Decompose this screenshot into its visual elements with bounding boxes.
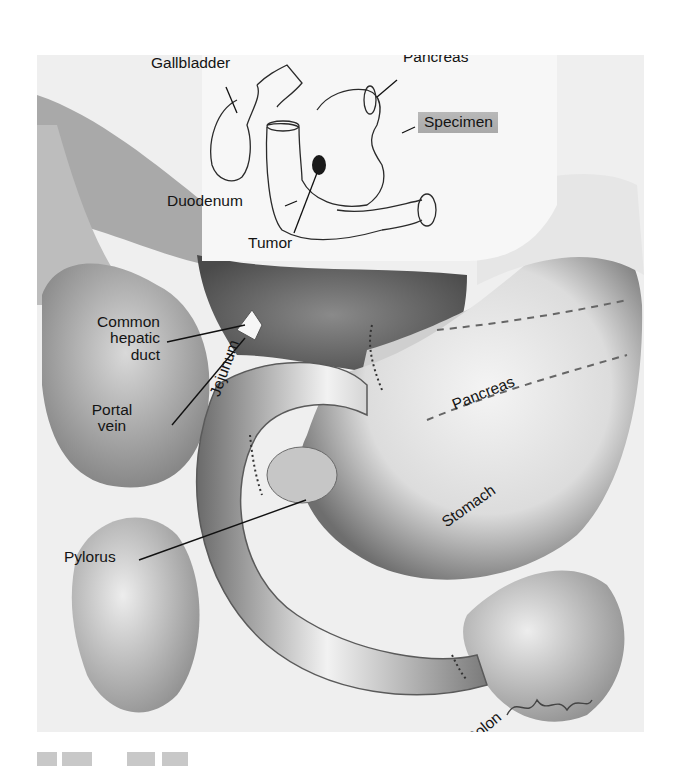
label-line: Common bbox=[70, 314, 160, 330]
label-line: vein bbox=[77, 418, 147, 434]
label-line: duct bbox=[70, 347, 160, 363]
label-tumor: Tumor bbox=[248, 235, 292, 251]
label-duodenum: Duodenum bbox=[167, 193, 243, 209]
label-line: Portal bbox=[77, 402, 147, 418]
surgical-illustration: Gallbladder Pancreas Specimen Duodenum T… bbox=[37, 55, 644, 732]
label-gallbladder: Gallbladder bbox=[151, 55, 230, 71]
label-inset-pancreas: Pancreas bbox=[403, 55, 468, 65]
figure-caption-cutoff bbox=[37, 752, 337, 768]
tumor-mark bbox=[312, 155, 326, 175]
label-specimen: Specimen bbox=[418, 112, 498, 133]
illustration-artwork bbox=[37, 55, 644, 732]
label-portal-vein: Portal vein bbox=[77, 402, 147, 435]
label-common-hepatic-duct: Common hepatic duct bbox=[70, 314, 160, 363]
pylorus-shape bbox=[267, 447, 337, 503]
label-pylorus: Pylorus bbox=[64, 549, 116, 565]
label-line: hepatic bbox=[70, 330, 160, 346]
